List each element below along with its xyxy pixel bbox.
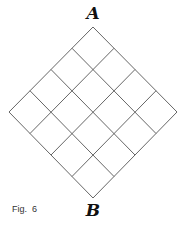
diagram: A B Fig. 6 bbox=[0, 0, 190, 228]
vertex-label-b: B bbox=[85, 200, 100, 220]
figure-caption: Fig. 6 bbox=[12, 204, 37, 214]
vertex-label-a: A bbox=[84, 3, 99, 23]
diamond-grid bbox=[9, 27, 177, 198]
